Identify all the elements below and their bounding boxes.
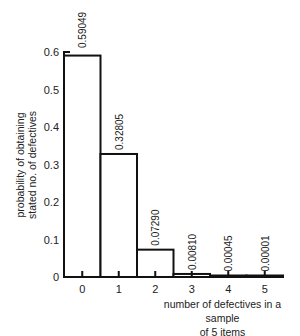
x-tick-label: 5 xyxy=(262,283,268,295)
y-tick-label: 0.3 xyxy=(44,159,59,171)
data-label: 0.59049 xyxy=(77,11,88,48)
y-tick-label: 0 xyxy=(53,271,59,283)
y-axis-label-line-2: stated no. of defectives xyxy=(26,90,38,240)
data-label: 0.00045 xyxy=(223,235,234,272)
y-tick-label: 0.6 xyxy=(44,46,59,58)
bar-1 xyxy=(101,154,138,277)
x-axis-label-line-1: number of defectives in a sample xyxy=(150,297,295,325)
x-tick-label: 1 xyxy=(116,283,122,295)
x-tick-label: 3 xyxy=(189,283,195,295)
y-tick-label: 0.4 xyxy=(44,121,59,133)
x-axis-label: number of defectives in a sample of 5 it… xyxy=(150,297,295,336)
data-label: 0.00001 xyxy=(260,235,271,272)
x-tick-label: 0 xyxy=(79,283,85,295)
data-label: 0.07290 xyxy=(150,209,161,246)
bars xyxy=(64,56,283,277)
bar-0 xyxy=(64,56,101,277)
y-tick-label: 0.5 xyxy=(44,84,59,96)
y-tick-label: 0.1 xyxy=(44,234,59,246)
x-tick-label: 2 xyxy=(152,283,158,295)
x-axis-label-line-2: of 5 items xyxy=(150,325,295,336)
y-axis-label: probability of obtaining stated no. of d… xyxy=(14,90,44,240)
bar-chart: 00.10.20.30.40.50.6 012345 0.590490.3280… xyxy=(0,0,300,336)
y-axis-label-line-1: probability of obtaining xyxy=(14,90,26,240)
data-label: 0.00810 xyxy=(187,233,198,270)
data-label: 0.32805 xyxy=(114,113,125,150)
x-tick-label: 4 xyxy=(225,283,231,295)
y-tick-label: 0.2 xyxy=(44,196,59,208)
